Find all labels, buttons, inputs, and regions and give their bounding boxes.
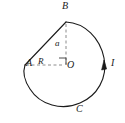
figure-canvas bbox=[0, 0, 125, 123]
geometry-figure: B A O I C R a bbox=[0, 0, 125, 123]
point-label-b: B bbox=[62, 1, 68, 11]
boundary-arc bbox=[24, 22, 105, 107]
point-label-i: I bbox=[111, 58, 114, 68]
point-label-c: C bbox=[76, 104, 83, 114]
right-angle-marker-icon bbox=[59, 58, 66, 65]
segment-label-r: R bbox=[38, 57, 44, 66]
segment-label-a: a bbox=[55, 39, 60, 48]
arrowhead-icon bbox=[102, 60, 107, 70]
point-label-o: O bbox=[67, 60, 74, 70]
point-label-a: A bbox=[26, 58, 32, 68]
